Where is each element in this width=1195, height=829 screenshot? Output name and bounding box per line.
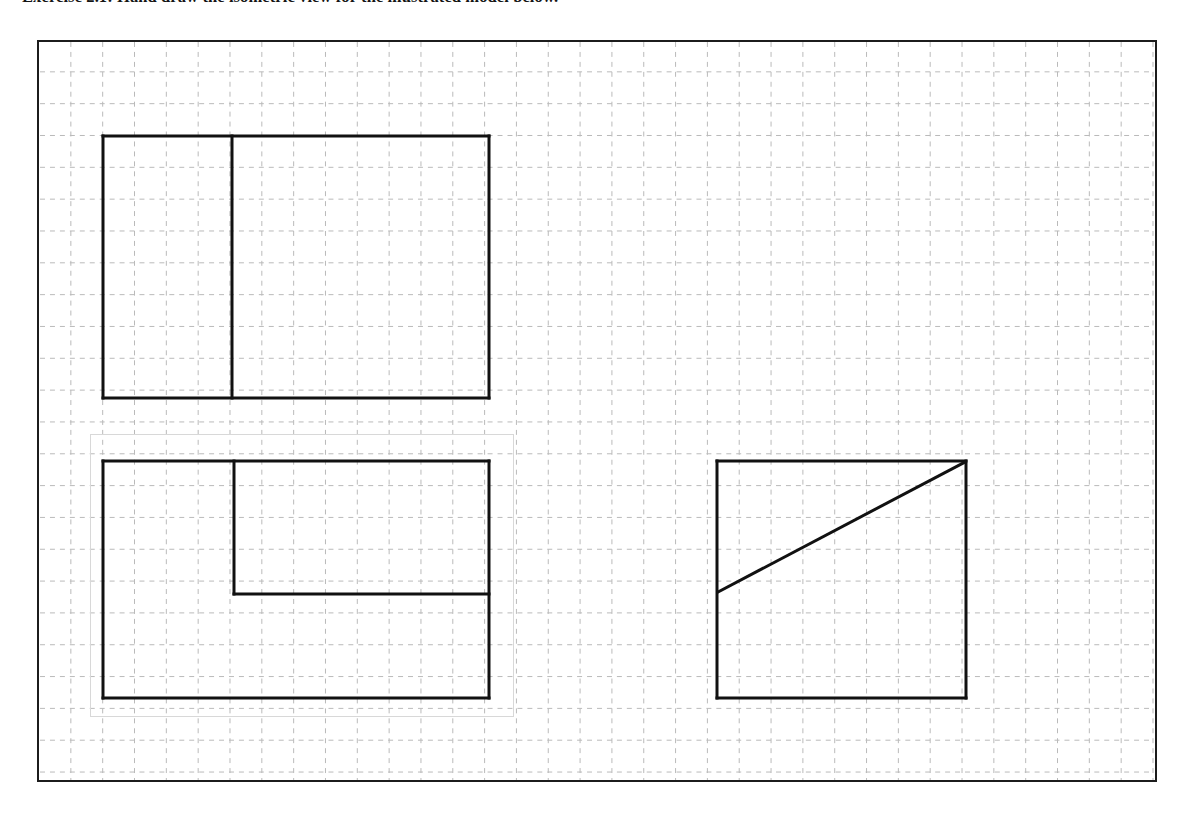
orthographic-views	[39, 42, 1155, 780]
side-view-diagonal	[718, 462, 965, 592]
top-view	[100, 458, 492, 701]
worksheet-page: Exercise 2.1: Hand draw the isometric vi…	[0, 0, 1195, 829]
drawing-frame	[37, 40, 1157, 782]
front-view	[100, 133, 492, 401]
exercise-heading: Exercise 2.1: Hand draw the isometric vi…	[22, 0, 1122, 9]
side-view	[714, 458, 969, 701]
